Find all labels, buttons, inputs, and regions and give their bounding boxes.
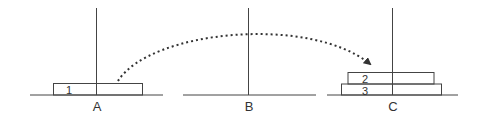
disk-1-label: 1 bbox=[66, 84, 72, 96]
peg-c-label: C bbox=[388, 99, 397, 114]
disk-2-label: 2 bbox=[362, 73, 368, 85]
move-arrow bbox=[118, 34, 370, 81]
peg-b: B bbox=[183, 8, 316, 114]
disk-2 bbox=[348, 73, 434, 85]
peg-a-label: A bbox=[93, 99, 102, 114]
tower-of-hanoi-diagram: 1 A B 2 3 C bbox=[0, 0, 479, 120]
peg-b-label: B bbox=[245, 99, 254, 114]
peg-a: 1 A bbox=[30, 8, 163, 114]
peg-c: 2 3 C bbox=[327, 8, 458, 114]
disk-3-label: 3 bbox=[362, 85, 368, 97]
disk-3 bbox=[342, 84, 442, 95]
